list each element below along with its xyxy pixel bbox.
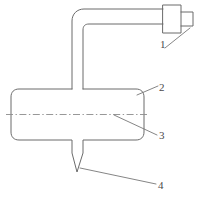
callout-label-4: 4 (158, 180, 164, 191)
leader-line-2 (137, 86, 158, 95)
hub-end-stub (181, 12, 193, 26)
leader-line-3 (114, 115, 157, 135)
figure-drawing (0, 0, 201, 199)
leader-line-4 (80, 168, 156, 184)
hub-connector-body (163, 5, 181, 33)
leader-line-1 (165, 28, 190, 48)
callout-label-1: 1 (160, 39, 166, 50)
tube-outer-wall (72, 9, 163, 89)
technical-figure: 1 2 3 4 (0, 0, 201, 199)
cross-body-outline (11, 89, 144, 172)
tube-inner-wall (83, 24, 163, 89)
callout-label-2: 2 (159, 82, 165, 93)
callout-label-3: 3 (159, 130, 165, 141)
